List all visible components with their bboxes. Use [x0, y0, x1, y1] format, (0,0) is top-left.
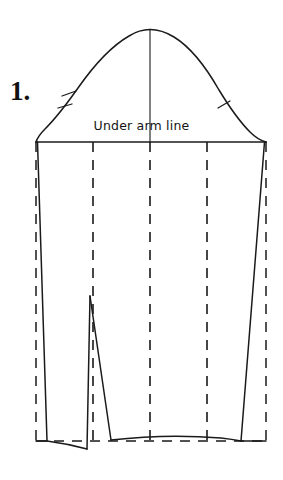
- dart-leg-left: [87, 296, 90, 449]
- under-arm-line-label: Under arm line: [0, 118, 283, 133]
- step-number-label: 1.: [10, 78, 30, 105]
- side-seam-left: [38, 142, 48, 441]
- sleeve-pattern-drawing: [0, 0, 283, 480]
- hem-curve-left-of-dart: [47, 441, 87, 449]
- hem-curve-right-of-dart: [111, 436, 241, 441]
- pattern-diagram-page: 1. Under arm line: [0, 0, 283, 480]
- side-seam-right: [241, 142, 265, 441]
